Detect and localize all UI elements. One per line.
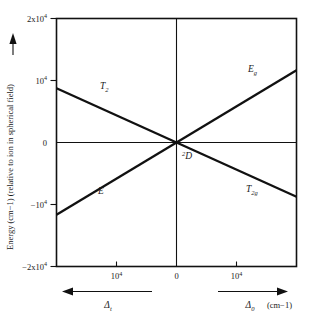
orgel-diagram-figure: 2x104 104 0 −104 −2x104 104 0 104 T2 E	[0, 0, 313, 314]
y-tick-label-10000: 104	[36, 75, 48, 85]
y-axis-title: Energy (cm−1) (relative to ion in spheri…	[5, 84, 15, 250]
curve-label-Eg: Eg	[247, 64, 258, 76]
y-tick-label-0: 0	[43, 138, 47, 148]
chart-svg: 2x104 104 0 −104 −2x104 104 0 104 T2 E	[0, 0, 313, 314]
x-tick-label-minus10000: 104	[111, 271, 123, 281]
delta-0-label: Δ0	[245, 300, 256, 312]
x-unit-label: (cm−1)	[267, 300, 292, 310]
y-tick-label-minus20000: −2x104	[22, 261, 47, 271]
level-line-Eg	[177, 70, 297, 142]
term-symbol-2D: 2D	[182, 150, 192, 161]
x-tick-label-10000: 104	[231, 271, 243, 281]
y-axis-title-group: Energy (cm−1) (relative to ion in spheri…	[5, 33, 17, 250]
x-tick-label-0: 0	[174, 271, 178, 281]
curve-label-T2g: T2g	[246, 184, 259, 196]
level-line-E	[57, 143, 177, 215]
y-tick-label-20000: 2x104	[27, 13, 47, 23]
level-line-T2g	[177, 143, 297, 197]
curve-label-T2: T2	[100, 81, 109, 93]
delta-t-arrow: Δt	[62, 288, 152, 312]
level-line-T2	[57, 88, 177, 142]
y-tick-label-minus10000: −104	[31, 199, 47, 209]
curve-label-E: E	[97, 186, 104, 196]
delta-t-label: Δt	[103, 300, 112, 312]
